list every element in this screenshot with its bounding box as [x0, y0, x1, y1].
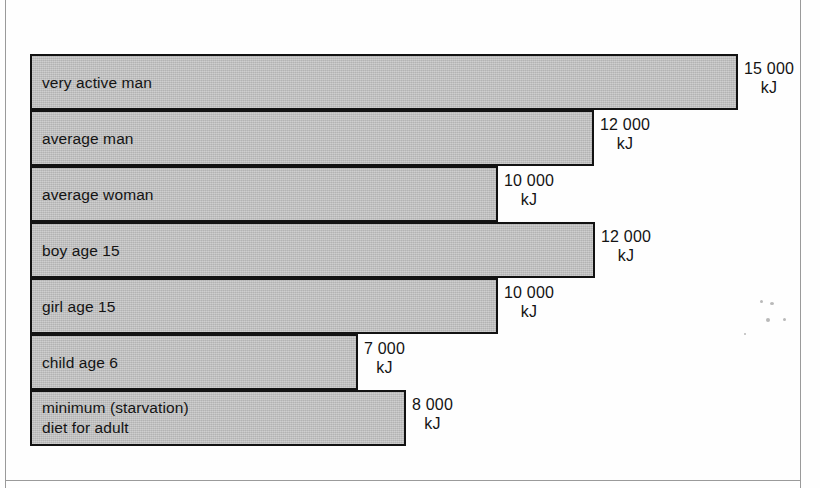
bar-row: average man 12 000 kJ: [30, 110, 790, 166]
bar-value-number: 15 000: [744, 59, 794, 78]
bar-chart-figure: very active man 15 000 kJ average man 12…: [0, 0, 820, 488]
bar-value-number: 12 000: [601, 227, 651, 246]
bar-row: child age 6 7 000 kJ: [30, 334, 790, 390]
bar-row: very active man 15 000 kJ: [30, 54, 790, 110]
bar-value-label: 15 000 kJ: [744, 59, 794, 97]
plot-area: very active man 15 000 kJ average man 12…: [30, 54, 790, 450]
bar-value-label: 12 000 kJ: [600, 115, 650, 153]
bar-value-unit: kJ: [504, 190, 554, 209]
bar-category-label: child age 6: [42, 353, 118, 372]
bar-value-number: 10 000: [504, 171, 554, 190]
bar-category-label: average man: [42, 129, 134, 148]
bar-value-unit: kJ: [600, 134, 650, 153]
bar-value-unit: kJ: [412, 414, 453, 433]
bar-value-number: 7 000: [364, 339, 405, 358]
bar-row: boy age 15 12 000 kJ: [30, 222, 790, 278]
bar-value-label: 12 000 kJ: [601, 227, 651, 265]
bar-category-label: girl age 15: [42, 297, 115, 316]
bar-value-unit: kJ: [601, 246, 651, 265]
bar-value-label: 10 000 kJ: [504, 171, 554, 209]
bar-category-label: minimum (starvation) diet for adult: [42, 398, 189, 438]
bar-category-label: boy age 15: [42, 241, 120, 260]
bar-row: average woman 10 000 kJ: [30, 166, 790, 222]
bar-value-label: 8 000 kJ: [412, 395, 453, 433]
bar-value-label: 7 000 kJ: [364, 339, 405, 377]
bar-category-label: very active man: [42, 73, 152, 92]
bar-value-number: 12 000: [600, 115, 650, 134]
bar-row: minimum (starvation) diet for adult 8 00…: [30, 390, 790, 446]
page-rule-bottom: [5, 480, 801, 481]
bar-value-unit: kJ: [504, 302, 554, 321]
page-rule-left: [5, 0, 6, 488]
bar-row: girl age 15 10 000 kJ: [30, 278, 790, 334]
bar-value-number: 8 000: [412, 395, 453, 414]
page-rule-right: [800, 0, 801, 488]
bar-value-label: 10 000 kJ: [504, 283, 554, 321]
bar-value-unit: kJ: [364, 358, 405, 377]
bar-value-unit: kJ: [744, 78, 794, 97]
bar-value-number: 10 000: [504, 283, 554, 302]
bar-category-label: average woman: [42, 185, 154, 204]
